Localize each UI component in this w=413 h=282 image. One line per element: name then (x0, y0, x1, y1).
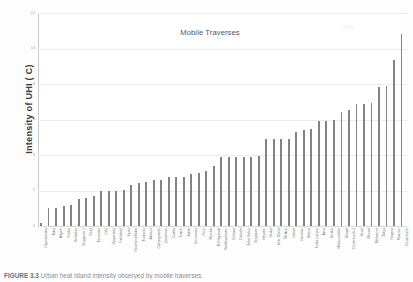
bar[interactable] (85, 198, 87, 226)
x-axis-label: Vijayawada (112, 228, 116, 274)
bar[interactable] (138, 183, 140, 226)
bar-slot (302, 13, 310, 226)
bar[interactable] (341, 112, 343, 226)
x-axis-label: Pune (202, 228, 206, 274)
bar-slot (77, 13, 85, 226)
figure-container: 024681012 Intensity of UHI ( C) Mobile T… (0, 0, 413, 282)
x-axis-label: Fatihabad (119, 228, 123, 274)
bar[interactable] (250, 157, 252, 226)
x-axis-label: Tirukovilu (142, 228, 146, 274)
bar[interactable] (258, 156, 260, 226)
x-axis-label: Kozuh (179, 228, 183, 274)
x-axis-label: Johor Bahru (247, 228, 251, 274)
bar[interactable] (378, 87, 380, 226)
x-axis-label: Tokyo (382, 228, 386, 274)
bar[interactable] (205, 171, 207, 226)
bar[interactable] (228, 157, 230, 226)
bar[interactable] (55, 208, 57, 226)
bar-slot (339, 13, 347, 226)
bar-slot (324, 13, 332, 226)
bar[interactable] (303, 130, 305, 226)
x-axis-label: Singapore (254, 228, 258, 274)
bar[interactable] (93, 196, 95, 226)
bar[interactable] (356, 104, 358, 226)
x-axis-label: Osaka (269, 228, 273, 274)
x-axis-label: Tel Nagasaki (217, 228, 221, 274)
x-axis-label: Kuala Lumpur (315, 228, 319, 274)
bar[interactable] (213, 166, 215, 226)
x-axis-label: Edad (89, 228, 93, 274)
bar[interactable] (265, 139, 267, 226)
bar[interactable] (175, 177, 177, 226)
x-axis-label: Moscow (397, 228, 401, 274)
x-axis-labels-group: HigashiosakaTokioAligarhFukikoNerbadanSi… (39, 228, 407, 276)
bar-slot (309, 13, 317, 226)
bar-slot (272, 13, 280, 226)
bar-slot (354, 13, 362, 226)
bar-slot (84, 13, 92, 226)
bar[interactable] (273, 139, 275, 226)
bar[interactable] (401, 34, 403, 226)
x-axis-label: Nerbadan (74, 228, 78, 274)
bar[interactable] (123, 190, 125, 226)
bar[interactable] (310, 129, 312, 226)
bar[interactable] (100, 191, 102, 226)
bar[interactable] (153, 180, 155, 226)
bar[interactable] (318, 121, 320, 226)
bar[interactable] (198, 173, 200, 226)
bar[interactable] (371, 103, 373, 226)
x-axis-label: Seoul (360, 228, 364, 274)
bar-slot (137, 13, 145, 226)
bar[interactable] (243, 157, 245, 226)
x-axis-label: Matsuura/Ube (337, 228, 341, 274)
caption-text: Urban heat island intensity observed by … (41, 272, 203, 279)
bar[interactable] (280, 139, 282, 226)
bar[interactable] (220, 157, 222, 226)
bar-slot (47, 13, 55, 226)
bar-slot (227, 13, 235, 226)
bar[interactable] (183, 177, 185, 226)
x-axis-label: Calcutta (239, 228, 243, 274)
bar[interactable] (386, 86, 388, 226)
bar[interactable] (325, 121, 327, 226)
bar[interactable] (348, 110, 350, 226)
bar[interactable] (48, 208, 50, 226)
x-axis-label: Tel Aviv (284, 228, 288, 274)
bar[interactable] (160, 180, 162, 226)
bar-slot (159, 13, 167, 226)
bar[interactable] (363, 104, 365, 226)
figure-caption: FIGURE 3.3 Urban heat island intensity o… (4, 272, 409, 279)
bar-slot (294, 13, 302, 226)
bar-slot (107, 13, 115, 226)
x-axis-label: Bhopal (345, 228, 349, 274)
bar[interactable] (333, 120, 335, 227)
y-tick-label-12: 12 (24, 11, 35, 15)
bar[interactable] (288, 139, 290, 226)
bar-slot (197, 13, 205, 226)
bar-slot (114, 13, 122, 226)
gridline-0 (38, 226, 407, 227)
bar[interactable] (190, 174, 192, 226)
bar[interactable] (108, 191, 110, 226)
bar-slot (122, 13, 130, 226)
bar-slot (152, 13, 160, 226)
bar[interactable] (115, 191, 117, 226)
bar[interactable] (63, 206, 65, 226)
bar[interactable] (235, 157, 237, 226)
bar[interactable] (130, 185, 132, 226)
bar-slot (317, 13, 325, 226)
bar[interactable] (295, 132, 297, 226)
x-axis-label: Singapore-1 (82, 228, 86, 274)
bar[interactable] (145, 182, 147, 226)
bar-slot (362, 13, 370, 226)
bar[interactable] (393, 60, 395, 226)
x-axis-label: Mumbai (209, 228, 213, 274)
bar[interactable] (40, 223, 42, 226)
x-axis-label: Lodz (104, 228, 108, 274)
bar[interactable] (168, 177, 170, 226)
bar-slot (234, 13, 242, 226)
bar-slot (182, 13, 190, 226)
x-axis-label: Azua (322, 228, 326, 274)
bar[interactable] (70, 205, 72, 226)
bar[interactable] (78, 199, 80, 227)
